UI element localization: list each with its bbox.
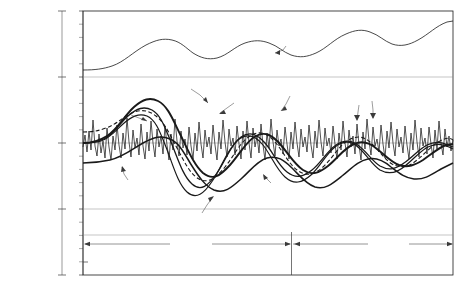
series-retail-inventory [83,21,453,70]
series-retail-sales [83,118,453,160]
chart-canvas [0,0,458,302]
chart-figure [0,0,458,302]
series-manufacturing-orders [83,115,453,196]
leader-plus24 [220,103,234,113]
